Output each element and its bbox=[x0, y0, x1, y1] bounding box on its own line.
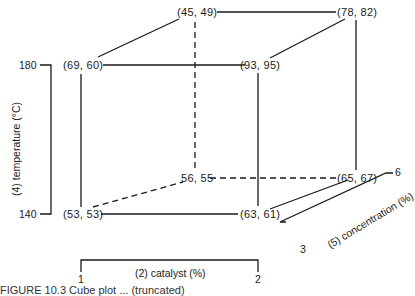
catalyst-axis-label: (2) catalyst (%) bbox=[135, 267, 206, 279]
temperature-low-tick: 140 bbox=[19, 208, 37, 220]
edge-depth-top-right bbox=[270, 19, 345, 58]
vertex-label-back-bottom-right: (65, 67) bbox=[337, 172, 377, 184]
vertex-label-back-top-right: (78, 82) bbox=[337, 6, 377, 18]
temperature-axis-label: (4) temperature (°C) bbox=[10, 102, 22, 196]
temperature-axis-bracket bbox=[40, 65, 51, 214]
catalyst-high-tick: 2 bbox=[255, 273, 261, 285]
edge-depth-bottom-right bbox=[270, 180, 348, 209]
edge-depth-bottom-left-hidden bbox=[93, 182, 183, 207]
vertex-label-back-top-left: (45, 49) bbox=[177, 6, 217, 18]
temperature-high-tick: 180 bbox=[19, 59, 37, 71]
vertex-label-back-bottom-left: 56, 55 bbox=[181, 172, 213, 184]
vertex-label-front-top-left: (69, 60) bbox=[63, 59, 103, 71]
vertex-label-front-top-right: (93, 95) bbox=[240, 59, 280, 71]
concentration-high-tick: 6 bbox=[395, 166, 401, 178]
vertex-label-front-bottom-right: (63, 61) bbox=[240, 208, 280, 220]
vertex-label-front-bottom-left: (53, 53) bbox=[63, 208, 103, 220]
edge-depth-top-left bbox=[98, 19, 179, 57]
concentration-low-tick: 3 bbox=[300, 243, 306, 255]
figure-caption: FIGURE 10.3 Cube plot ... (truncated) bbox=[0, 284, 185, 296]
